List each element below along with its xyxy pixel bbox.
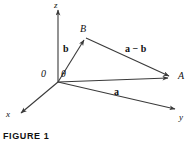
axis-label-y: y (179, 113, 183, 122)
x-axis-line (21, 82, 58, 113)
vector-diagram (0, 0, 194, 141)
point-label-b: B (80, 24, 86, 34)
origin-label: 0 (41, 69, 46, 79)
axis-label-x: x (6, 110, 10, 119)
vector-label-a-minus-b: a − b (125, 44, 146, 54)
vector-a-line (58, 78, 168, 82)
figure-caption: FIGURE 1 (3, 131, 49, 141)
point-label-a: A (178, 71, 184, 81)
angle-theta-label: θ (61, 69, 66, 79)
figure-container: x y z 0 θ B A b a a − b FIGURE 1 (0, 0, 194, 141)
vector-label-a: a (114, 87, 119, 97)
axis-label-z: z (54, 1, 58, 10)
vector-label-b: b (63, 44, 69, 54)
